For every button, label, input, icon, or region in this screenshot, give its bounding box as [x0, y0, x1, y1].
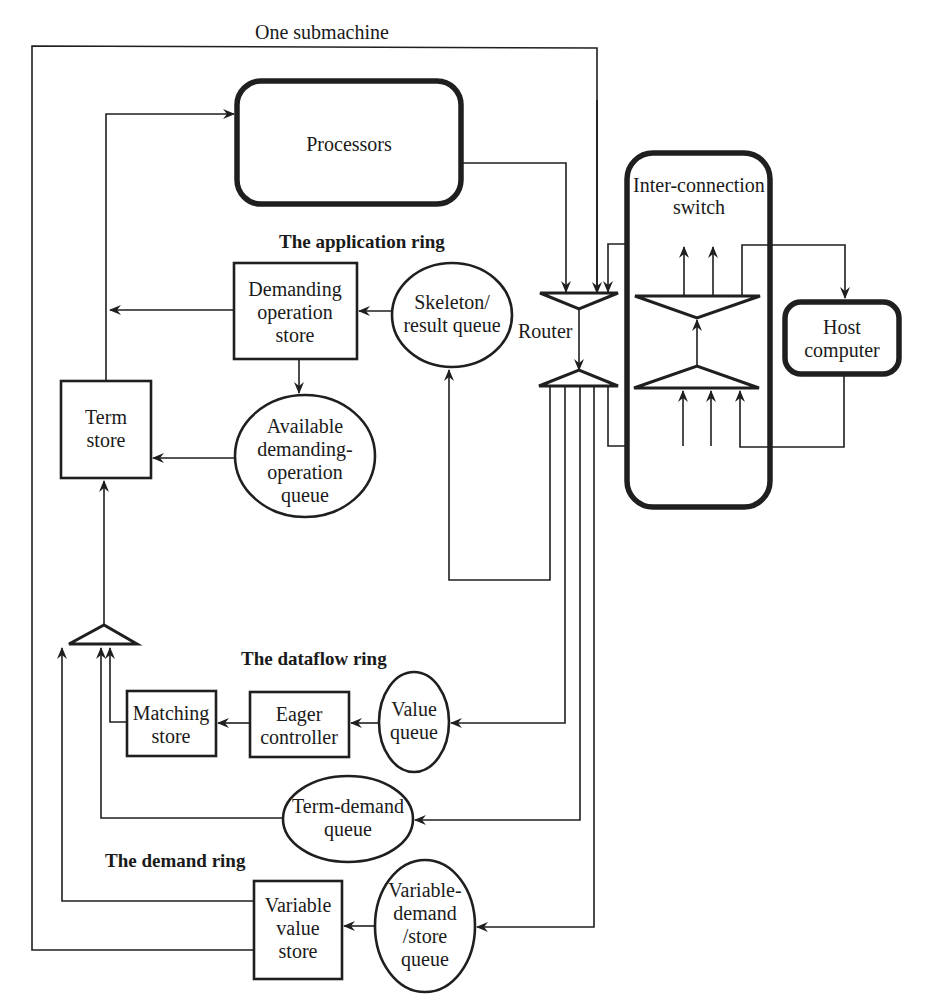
matching-label-2: store [152, 725, 191, 747]
value-queue-label-2: queue [390, 721, 438, 744]
available-label-2: demanding- [257, 438, 353, 461]
host-label-line2: computer [804, 339, 880, 362]
demanding-store-label-2: operation [257, 301, 333, 324]
dataflow-ring-title: The dataflow ring [241, 648, 387, 669]
eager-label-1: Eager [276, 703, 323, 726]
skeleton-label-1: Skeleton/ [414, 291, 490, 313]
skeleton-result-queue-node: Skeleton/ result queue [392, 263, 512, 367]
available-label-4: queue [281, 484, 329, 507]
variable-demand-label-1: Variable- [388, 879, 461, 901]
available-label-3: operation [267, 461, 343, 484]
variable-value-label-2: value [276, 917, 319, 939]
matching-store-node: Matching store [127, 691, 216, 756]
router-node: Router [518, 293, 618, 386]
variable-value-store-node: Variable value store [254, 881, 342, 979]
host-computer-node: Host computer [785, 302, 899, 374]
eager-label-2: controller [260, 726, 338, 748]
merge-triangle [69, 625, 137, 644]
diagram-title: One submachine [255, 21, 389, 43]
term-demand-label-2: queue [324, 818, 372, 841]
demand-ring-title: The demand ring [105, 850, 246, 871]
processors-node: Processors [237, 81, 461, 204]
term-to-processors-arrow [106, 114, 234, 381]
interconnect-label-line2: switch [673, 196, 725, 218]
router-to-variable-queue-arrow [477, 387, 594, 927]
available-label-1: Available [267, 415, 343, 437]
submachine-diagram: One submachine Processors Router Inter-c… [0, 0, 935, 1005]
term-store-label-2: store [87, 429, 126, 451]
eager-controller-node: Eager controller [250, 692, 349, 757]
demanding-store-label-1: Demanding [248, 278, 341, 301]
value-queue-label-1: Value [391, 698, 437, 720]
host-label-line1: Host [823, 316, 861, 338]
application-ring-title: The application ring [279, 231, 445, 252]
matching-to-merge-arrow [110, 648, 127, 722]
term-store-node: Term store [61, 381, 151, 478]
interconnect-label-line1: Inter-connection [633, 174, 765, 196]
variable-demand-store-queue-node: Variable- demand /store queue [375, 860, 475, 992]
variable-demand-label-2: demand [393, 902, 456, 924]
matching-label-1: Matching [133, 702, 210, 725]
demanding-operation-store-node: Demanding operation store [234, 263, 357, 359]
interconnection-switch-node: Inter-connection switch [627, 153, 770, 507]
variable-value-label-1: Variable [265, 894, 332, 916]
variable-demand-label-4: queue [401, 948, 449, 971]
available-demanding-operation-queue-node: Available demanding- operation queue [235, 395, 375, 517]
value-queue-node: Value queue [379, 672, 449, 772]
term-demand-queue-node: Term-demand queue [283, 776, 413, 862]
processors-label: Processors [306, 133, 392, 155]
variable-demand-label-3: /store [403, 925, 448, 947]
term-demand-label-1: Term-demand [292, 795, 404, 817]
term-store-label-1: Term [85, 406, 127, 428]
router-label: Router [518, 320, 573, 342]
router-to-skeleton-arrow [449, 370, 550, 580]
demanding-store-label-3: store [276, 324, 315, 346]
variable-value-label-3: store [279, 940, 318, 962]
skeleton-label-2: result queue [403, 314, 500, 337]
router-to-value-arrow [451, 387, 565, 723]
